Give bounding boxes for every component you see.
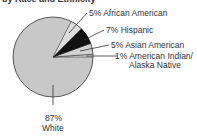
label-white-pct: 87% bbox=[45, 114, 62, 123]
label-asian-american: 5% Asian American bbox=[111, 41, 184, 50]
label-hispanic: 7% Hispanic bbox=[106, 26, 153, 35]
label-american-indian-2: Alaska Native bbox=[129, 61, 181, 70]
label-african-american: 5% African American bbox=[89, 9, 167, 18]
leader-hispanic bbox=[84, 30, 104, 40]
label-white: White bbox=[42, 124, 64, 133]
